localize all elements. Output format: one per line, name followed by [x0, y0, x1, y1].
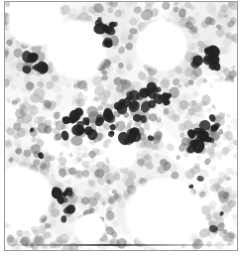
micrograph-image	[5, 2, 237, 250]
micrograph-frame: Photomicrograph of a hypercellular bone …	[4, 1, 238, 251]
figure-root: Photomicrograph of a hypercellular bone …	[0, 0, 245, 258]
